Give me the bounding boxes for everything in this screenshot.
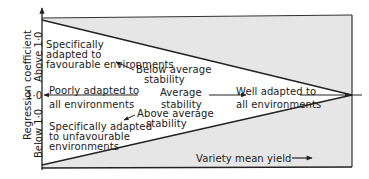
- average-stability-label-line1: Average: [160, 87, 202, 98]
- y-below-label: Below 1·0: [33, 109, 44, 158]
- well-adapted-label-line2: all environments: [236, 99, 321, 110]
- well-adapted-label-line1: Well adapted to: [236, 86, 316, 97]
- y-tick-label: 1·0: [26, 90, 42, 101]
- x-axis-title: Variety mean yield: [196, 153, 292, 164]
- regression-adaptation-diagram: Regression coefficient Above 1·0 Below 1…: [0, 0, 369, 179]
- bottom-frame-line: [42, 167, 352, 168]
- above-average-label-line2: stability: [146, 118, 187, 129]
- poorly-adapted-label-line1: Poorly adapted to: [49, 85, 139, 96]
- y-above-label: Above 1·0: [33, 32, 44, 82]
- below-average-label-line2: stability: [144, 74, 185, 85]
- above-average-pointer: [124, 115, 135, 120]
- unfavourable-label-line3: environments: [49, 141, 119, 152]
- y-axis-title: Regression coefficient: [22, 30, 33, 140]
- poorly-adapted-label-line2: all environments: [49, 99, 134, 110]
